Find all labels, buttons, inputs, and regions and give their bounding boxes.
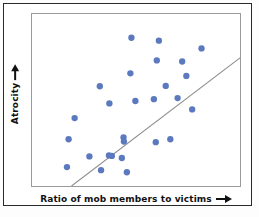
data-point [189, 106, 195, 112]
data-point [124, 169, 130, 175]
y-axis-label: Atrocity [11, 82, 21, 123]
data-point [154, 57, 160, 63]
trend-line-layer [72, 58, 240, 186]
data-point [132, 98, 138, 104]
plot-canvas [32, 14, 240, 186]
data-point [106, 100, 112, 106]
data-point [97, 83, 103, 89]
data-point [121, 138, 127, 144]
data-point [128, 35, 134, 41]
data-point [86, 153, 92, 159]
data-point [109, 153, 115, 159]
data-point [163, 83, 169, 89]
right-arrow-icon [216, 195, 232, 204]
plot-area [31, 13, 241, 187]
trend-line [72, 58, 240, 186]
x-axis-label: Ratio of mob members to victims [40, 194, 212, 204]
data-point [153, 139, 159, 145]
data-point [119, 155, 125, 161]
data-point [179, 58, 185, 64]
x-axis-label-group: Ratio of mob members to victims [31, 188, 241, 210]
data-point [127, 70, 133, 76]
data-point [167, 136, 173, 142]
data-point [151, 96, 157, 102]
data-point [71, 115, 77, 121]
data-points-layer [64, 35, 205, 176]
scatter-plot-figure: Atrocity Ratio of mob members to victims [0, 0, 259, 217]
y-axis-label-group: Atrocity [0, 0, 31, 187]
data-point [198, 45, 204, 51]
data-point [65, 136, 71, 142]
data-point [174, 95, 180, 101]
data-point [156, 37, 162, 43]
up-arrow-icon [11, 63, 20, 79]
data-point [183, 73, 189, 79]
data-point [98, 167, 104, 173]
data-point [64, 164, 70, 170]
